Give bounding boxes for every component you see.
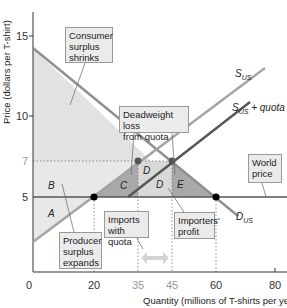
x-label-20: 20: [88, 279, 100, 291]
leader-world: [262, 183, 266, 197]
x-label-35: 35: [132, 279, 144, 291]
x-label-60: 60: [210, 279, 222, 291]
area-label-d-top: D: [143, 165, 150, 176]
note-line: Consumer: [69, 30, 109, 41]
note-line: surplus: [63, 246, 98, 257]
world-price-note: World price: [248, 154, 282, 183]
note-line: World: [252, 157, 278, 168]
demand-label: DUS: [236, 211, 253, 224]
supply-quota-label: SUS + quota: [232, 102, 285, 115]
point-20-5: [90, 193, 97, 200]
note-line: surplus: [69, 41, 109, 52]
note-line: shrinks: [69, 52, 109, 63]
y-label-15: 15: [16, 30, 28, 42]
point-60-5: [212, 193, 219, 200]
note-line: Importers': [178, 215, 211, 226]
y-axis-title: Price (dollars per T-shirt): [1, 20, 12, 124]
deadweight-loss-note: Deadweight loss from quota: [119, 106, 189, 133]
note-line: with quota: [108, 225, 145, 247]
note-line: Producer: [63, 235, 98, 246]
area-label-b: B: [48, 180, 55, 191]
note-line: Deadweight loss: [123, 109, 185, 131]
area-label-e: E: [177, 179, 184, 190]
note-line: expands: [63, 257, 98, 268]
area-label-a: A: [47, 208, 55, 219]
quota-chart: 15 10 7 5 0 20 35 45 60 80 Quantity (mil…: [0, 0, 287, 308]
imports-double-arrow: [141, 252, 169, 264]
note-line: from quota: [123, 131, 185, 142]
area-label-d: D: [156, 179, 163, 190]
consumer-surplus-note: Consumer surplus shrinks: [65, 27, 113, 63]
note-line: price: [252, 168, 278, 179]
area-label-c: C: [120, 180, 128, 191]
imports-with-quota-note: Imports with quota: [104, 211, 149, 238]
point-35-7: [135, 158, 142, 165]
x-label-80: 80: [269, 279, 281, 291]
y-label-10: 10: [16, 110, 28, 122]
note-line: Imports: [108, 214, 145, 225]
x-axis-title: Quantity (millions of T-shirts per year): [143, 295, 287, 306]
supply-label: SUS: [235, 68, 252, 81]
x-label-0: 0: [26, 279, 32, 291]
x-label-45: 45: [166, 279, 178, 291]
producer-surplus-note: Producer surplus expands: [59, 232, 102, 269]
y-label-7: 7: [22, 155, 28, 167]
importers-profit-note: Importers' profit: [174, 212, 215, 239]
y-label-5: 5: [22, 191, 28, 203]
note-line: profit: [178, 226, 211, 237]
